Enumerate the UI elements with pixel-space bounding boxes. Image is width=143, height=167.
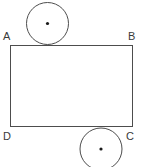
rectangle-abcd xyxy=(11,46,133,127)
figure-canvas xyxy=(0,0,143,167)
vertex-label-b: B xyxy=(128,31,135,42)
top-circle-center-dot xyxy=(46,22,49,25)
vertex-label-c: C xyxy=(126,131,134,142)
vertex-label-a: A xyxy=(3,31,10,42)
vertex-label-d: D xyxy=(3,131,11,142)
geometry-figure: A B D C xyxy=(0,0,143,167)
bottom-circle-center-dot xyxy=(99,147,102,150)
